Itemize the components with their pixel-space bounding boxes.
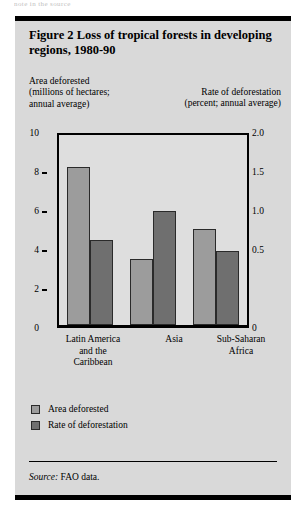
bottom-rule <box>15 495 291 500</box>
source-prefix: Source: <box>29 472 58 482</box>
figure-page: note in the source Figure 2 Loss of trop… <box>0 0 306 525</box>
right-tick-0-5: 0.5 <box>252 245 278 255</box>
left-tick-2: 2 <box>13 284 39 294</box>
figure-title: Figure 2 Loss of tropical forests in dev… <box>29 28 281 58</box>
source-text: FAO data. <box>61 472 100 482</box>
chart-legend: Area deforested Rate of deforestation <box>31 404 128 436</box>
left-tick-0: 0 <box>13 323 39 333</box>
figure-box: Figure 2 Loss of tropical forests in dev… <box>15 16 291 500</box>
bar-rate-deforestation-asia <box>153 211 176 325</box>
legend-item-area-deforested: Area deforested <box>31 404 128 414</box>
category-labels: Latin America and the Caribbean Asia Sub… <box>35 334 285 376</box>
running-head-text: note in the source <box>14 0 194 9</box>
right-tick-0: 0 <box>252 323 278 333</box>
bar-rate-deforestation-sub-saharan-africa <box>216 251 239 325</box>
legend-label-area-deforested: Area deforested <box>48 404 108 414</box>
left-tick-10: 10 <box>13 128 39 138</box>
legend-swatch-icon-area-deforested <box>31 405 40 414</box>
source-divider <box>29 461 277 462</box>
bar-area-deforested-latin-america <box>67 167 90 325</box>
bar-group-latin-america <box>67 135 113 325</box>
bar-area-deforested-asia <box>130 259 153 326</box>
left-axis-caption: Area deforested (millions of hectares; a… <box>29 76 110 110</box>
left-tick-8: 8 <box>13 167 39 177</box>
bars-container <box>59 135 247 325</box>
category-label-asia: Asia <box>143 334 205 346</box>
left-tickmark-4 <box>42 250 47 252</box>
right-tick-2-0: 2.0 <box>252 128 278 138</box>
bar-group-sub-saharan-africa <box>193 135 239 325</box>
left-tick-6: 6 <box>13 206 39 216</box>
legend-label-rate-deforestation: Rate of deforestation <box>48 420 128 430</box>
right-axis-caption: Rate of deforestation (percent; annual a… <box>184 87 281 110</box>
source-note: Source: FAO data. <box>29 472 99 482</box>
left-tickmark-2 <box>42 289 47 291</box>
legend-item-rate-deforestation: Rate of deforestation <box>31 420 128 430</box>
top-rule <box>15 16 291 21</box>
bar-group-asia <box>130 135 176 325</box>
category-label-latin-america: Latin America and the Caribbean <box>39 334 147 369</box>
right-tick-1-5: 1.5 <box>252 167 278 177</box>
legend-swatch-icon-rate-deforestation <box>31 421 40 430</box>
plot-area <box>57 133 249 328</box>
left-tickmark-8 <box>42 172 47 174</box>
right-tick-1-0: 1.0 <box>252 206 278 216</box>
bar-rate-deforestation-latin-america <box>90 240 113 326</box>
left-tickmark-6 <box>42 211 47 213</box>
left-tick-4: 4 <box>13 245 39 255</box>
bar-area-deforested-sub-saharan-africa <box>193 229 216 325</box>
category-label-sub-saharan-africa: Sub-Saharan Africa <box>197 334 285 357</box>
